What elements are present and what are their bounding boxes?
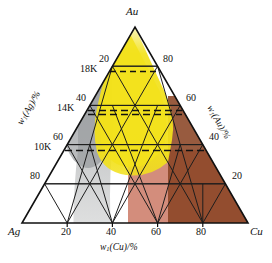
axis-title-bottom-suffix: (Cu)/% [110,242,138,252]
axis-title-bottom: w1(Cu)/% [100,243,138,253]
right-tick-40: 40 [209,132,219,142]
right-tick-20: 20 [232,171,242,181]
corner-label-au: Au [126,6,138,17]
bottom-tick-80: 80 [196,227,206,237]
karat-label-10k: 10K [34,142,51,152]
left-tick-80: 80 [30,171,40,181]
right-tick-80: 80 [163,54,173,64]
left-tick-40: 40 [76,93,86,103]
karat-label-14k: 14K [57,103,74,113]
bottom-tick-40: 40 [106,227,116,237]
bottom-tick-20: 20 [61,227,71,237]
bottom-tick-60: 60 [151,227,161,237]
corner-label-cu: Cu [250,226,263,237]
right-tick-60: 60 [186,93,196,103]
left-tick-60: 60 [53,132,63,142]
corner-label-ag: Ag [8,226,20,237]
karat-label-18k: 18K [80,64,97,74]
ternary-diagram-svg [0,0,272,263]
yellow-gold-region [95,27,174,175]
ternary-diagram-figure: Au Ag Cu 20 40 60 80 20 40 60 80 80 60 4… [0,0,272,263]
left-tick-20: 20 [99,54,109,64]
